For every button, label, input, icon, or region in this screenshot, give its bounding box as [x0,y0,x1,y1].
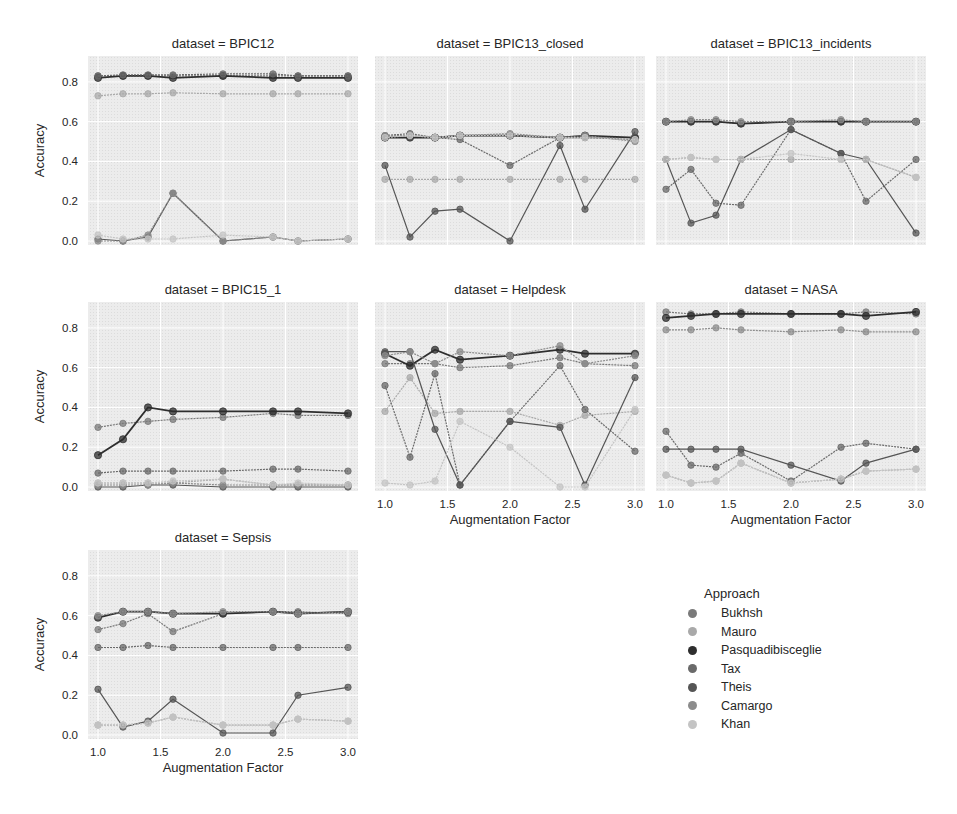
data-point-marker [145,480,151,486]
x-tick-label: 2.5 [278,746,294,758]
data-point-marker [95,644,101,650]
data-point-marker [220,482,226,488]
data-point-marker [295,466,301,472]
data-point-marker [270,71,276,77]
facet-panel: dataset = NASA1.01.52.02.53.0Augmentatio… [656,282,926,527]
data-point-marker [663,186,669,192]
data-point-marker [913,230,919,236]
data-point-marker [345,608,351,614]
data-point-marker [432,208,438,214]
data-point-marker [382,353,388,359]
data-point-marker [345,468,351,474]
x-tick-label: 3.0 [340,746,356,758]
x-tick-label: 1.0 [377,498,393,510]
x-tick-label: 2.5 [846,498,862,510]
data-point-marker [688,462,694,468]
data-point-marker [120,236,126,242]
data-point-marker [582,206,588,212]
legend-item: Theis [680,678,822,697]
facet-panel: dataset = BPIC13_closed [375,36,645,245]
legend-marker-icon [688,683,697,692]
y-tick-label: 0.2 [62,195,78,207]
data-point-marker [220,722,226,728]
panel-title: dataset = BPIC12 [172,36,274,51]
data-point-marker [95,612,101,618]
data-point-marker [738,327,744,333]
data-point-marker [95,626,101,632]
data-point-marker [632,448,638,454]
data-point-marker [632,406,638,412]
data-point-marker [407,349,413,355]
facet-panel: dataset = BPIC120.00.20.40.60.8Accuracy [32,36,358,247]
data-point-marker [687,312,694,319]
y-tick-label: 0.4 [62,401,79,413]
x-tick-label: 1.5 [721,498,737,510]
x-tick-label: 3.0 [627,498,643,510]
data-point-marker [913,446,919,452]
data-point-marker [713,464,719,470]
x-tick-label: 1.5 [153,746,169,758]
x-tick-label: 1.0 [90,746,106,758]
data-point-marker [582,360,588,366]
data-point-marker [632,128,638,134]
data-point-marker [220,608,226,614]
data-point-marker [507,362,513,368]
data-point-marker [582,176,588,182]
data-point-marker [788,462,794,468]
x-tick-label: 1.0 [658,498,674,510]
panel-title: dataset = BPIC15_1 [165,282,282,297]
legend-label: Theis [721,680,752,694]
data-point-marker [295,644,301,650]
legend-item: Khan [680,715,822,734]
data-point-marker [145,720,151,726]
data-point-marker [581,350,588,357]
panel-title: dataset = Helpdesk [454,282,566,297]
data-point-marker [95,480,101,486]
legend-marker-icon [688,609,697,618]
legend-label: Camargo [721,699,772,713]
data-point-marker [120,480,126,486]
data-point-marker [432,176,438,182]
data-point-marker [688,166,694,172]
legend: Approach BukhshMauroPasquadibisceglieTax… [680,586,822,734]
data-point-marker [382,360,388,366]
data-point-marker [170,478,176,484]
data-point-marker [407,374,413,380]
data-point-marker [144,404,151,411]
data-point-marker [788,150,794,156]
legend-label: Mauro [721,625,756,639]
y-tick-label: 0.6 [62,362,78,374]
data-point-marker [120,722,126,728]
data-point-marker [169,408,176,415]
data-point-marker [170,236,176,242]
data-point-marker [95,470,101,476]
x-axis-label: Augmentation Factor [450,512,571,527]
data-point-marker [738,202,744,208]
data-point-marker [270,91,276,97]
data-point-marker [913,174,919,180]
data-point-marker [863,118,869,124]
data-point-marker [738,446,744,452]
data-point-marker [145,236,151,242]
data-point-marker [838,327,844,333]
data-point-marker [507,176,513,182]
legend-title: Approach [704,586,822,601]
data-point-marker [713,212,719,218]
panel-title: dataset = BPIC13_closed [436,36,583,51]
data-point-marker [913,466,919,472]
data-point-marker [632,362,638,368]
legend-marker-icon [688,720,697,729]
data-point-marker [507,444,513,450]
data-point-marker [120,91,126,97]
facet-panel: dataset = BPIC15_10.00.20.40.60.8Accurac… [32,282,358,493]
data-point-marker [632,176,638,182]
y-axis-label: Accuracy [32,617,47,671]
legend-label: Khan [721,717,750,731]
data-point-marker [345,482,351,488]
data-point-marker [407,176,413,182]
data-point-marker [120,644,126,650]
data-point-marker [145,72,151,78]
data-point-marker [345,236,351,242]
data-point-marker [688,220,694,226]
legend-marker-icon [688,627,697,636]
